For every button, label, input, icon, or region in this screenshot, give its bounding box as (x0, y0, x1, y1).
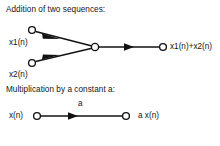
input-label-x: x(n) (9, 111, 23, 121)
output-node-ax (123, 113, 130, 120)
multiplication-diagram-group (34, 112, 130, 120)
output-node-sum (160, 44, 167, 51)
figure-canvas: Addition of two sequences: x1(n) x2(n) x… (0, 0, 220, 146)
input-node-x (34, 113, 41, 120)
output-label-ax: a x(n) (138, 111, 159, 121)
branch-wire-x1 (36, 32, 92, 46)
input-label-x2: x2(n) (9, 70, 28, 80)
input-node-x1 (29, 27, 36, 34)
addition-section-heading: Addition of two sequences: (6, 5, 105, 15)
input-node-x2 (29, 60, 36, 67)
gain-label-a: a (78, 99, 83, 109)
arrowhead-gain-icon (68, 112, 78, 120)
summing-junction-node (91, 43, 98, 50)
signal-flow-graph-svg (0, 0, 220, 146)
addition-diagram-group (29, 27, 167, 67)
output-label-sum: x1(n)+x2(n) (170, 42, 212, 52)
arrowhead-x1-icon (42, 34, 60, 40)
multiplication-section-heading: Multiplication by a constant a: (6, 85, 115, 95)
input-label-x1: x1(n) (9, 38, 28, 48)
arrowhead-sum-icon (124, 43, 134, 51)
